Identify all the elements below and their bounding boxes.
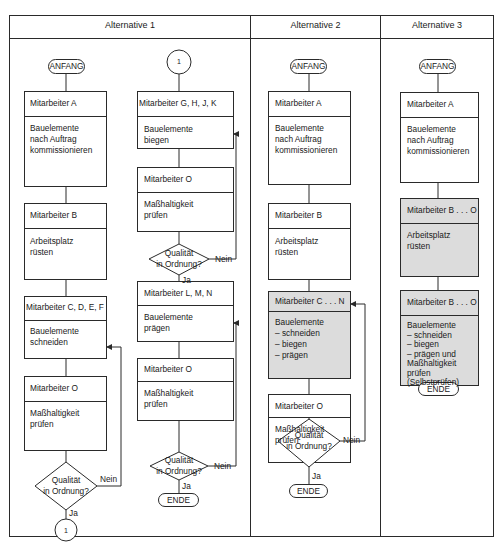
task-label: Bauelemente– schneiden– biegen– prägen: [275, 317, 324, 361]
decision-yes-label: Ja: [182, 275, 191, 286]
task-label: Maßhaltigkeitprüfen: [144, 388, 193, 410]
worker-label: Mitarbeiter C . . . N: [275, 296, 345, 307]
decision-yes-label: Ja: [69, 508, 78, 519]
task-label: Arbeitsplatzrüsten: [30, 236, 73, 258]
decision-label: Qualitätin Ordnung?: [149, 248, 209, 270]
decision-label: Qualitätin Ordnung?: [36, 475, 96, 497]
task-label: Arbeitsplatzrüsten: [407, 230, 450, 252]
task-label: Maßhaltigkeitprüfen: [30, 408, 79, 430]
task-label: Bauelementebiegen: [144, 124, 193, 146]
column-header-alt2: Alternative 2: [251, 19, 380, 31]
task-label: Bauelementeschneiden: [30, 326, 79, 348]
decision-label: Qualitätin Ordnung?: [279, 430, 339, 452]
start-label: ANFANG: [48, 61, 85, 72]
worker-label: Mitarbeiter L, M, N: [144, 288, 212, 299]
decision-yes-label: Ja: [182, 481, 191, 492]
end-label: ENDE: [158, 495, 199, 506]
worker-label: Mitarbeiter C, D, E, F: [26, 302, 104, 313]
decision-no-label: Nein: [214, 461, 231, 472]
task-label: Bauelemente– schneiden– biegen– prägen u…: [407, 321, 459, 388]
task-label: Arbeitsplatzrüsten: [275, 236, 318, 258]
worker-label: Mitarbeiter A: [30, 98, 77, 109]
worker-label: Mitarbeiter B . . . O: [407, 297, 477, 308]
task-label: Maßhaltigkeitprüfen: [144, 199, 193, 221]
connector-label: 1: [56, 525, 76, 536]
worker-label: Mitarbeiter A: [275, 98, 322, 109]
end-label: ENDE: [418, 384, 459, 395]
worker-label: Mitarbeiter G, H, J, K: [139, 98, 216, 109]
task-label: Bauelementenach Auftragkommissionieren: [407, 124, 469, 157]
worker-label: Mitarbeiter B: [30, 210, 77, 221]
worker-label: Mitarbeiter O: [275, 401, 323, 412]
decision-no-label: Nein: [100, 474, 117, 485]
end-label: ENDE: [289, 486, 328, 497]
task-label: Bauelementeprägen: [144, 312, 193, 334]
worker-label: Mitarbeiter B: [275, 210, 322, 221]
column-header-alt1: Alternative 1: [10, 19, 250, 31]
start-label: ANFANG: [419, 61, 456, 72]
decision-no-label: Nein: [215, 254, 232, 265]
worker-label: Mitarbeiter O: [144, 174, 192, 185]
column-header-alt3: Alternative 3: [381, 19, 493, 31]
task-label: Bauelementenach Auftragkommissionieren: [275, 123, 337, 156]
task-label: Bauelementenach Auftragkommissionieren: [30, 123, 92, 156]
decision-yes-label: Ja: [312, 471, 321, 482]
decision-label: Qualitätin Ordnung?: [149, 455, 209, 477]
start-label: ANFANG: [290, 61, 327, 72]
decision-no-label: Nein: [343, 435, 360, 446]
worker-label: Mitarbeiter B . . . O: [407, 205, 477, 216]
worker-label: Mitarbeiter O: [144, 364, 192, 375]
worker-label: Mitarbeiter A: [407, 99, 454, 110]
worker-label: Mitarbeiter O: [30, 383, 78, 394]
connector-label: 1: [169, 56, 189, 67]
